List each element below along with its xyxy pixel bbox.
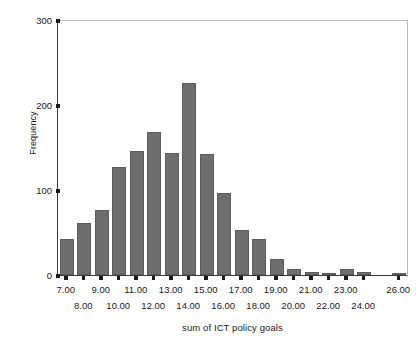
x-axis-tick-mark — [152, 276, 156, 280]
histogram-bar — [235, 230, 249, 275]
histogram-bar — [357, 272, 371, 275]
x-axis-tick-label: 22.00 — [311, 301, 345, 311]
x-axis-tick-mark — [274, 276, 278, 280]
histogram-bar — [60, 239, 74, 275]
x-axis-tick-label: 14.00 — [171, 301, 205, 311]
histogram-bar — [112, 167, 126, 275]
x-axis-tick-label: 17.00 — [224, 285, 258, 295]
x-axis-tick-mark — [327, 276, 331, 280]
histogram-bar — [200, 154, 214, 275]
x-axis-tick-label: 20.00 — [276, 301, 310, 311]
histogram-bar — [217, 193, 231, 275]
x-axis-tick-mark — [222, 276, 226, 280]
x-axis-tick-label: 13.00 — [154, 285, 188, 295]
histogram-bar — [252, 239, 266, 275]
histogram-bar — [130, 151, 144, 275]
x-axis-tick-label: 15.00 — [189, 285, 223, 295]
histogram-bar — [165, 153, 179, 275]
x-axis-tick-label: 11.00 — [119, 285, 153, 295]
x-axis-tick-mark — [344, 276, 348, 280]
histogram-chart: Frequency 0100200300 7.008.009.0010.0011… — [0, 0, 416, 351]
histogram-bar — [392, 273, 406, 275]
x-axis-tick-label: 9.00 — [84, 285, 118, 295]
x-axis-tick-label: 26.00 — [381, 285, 415, 295]
bar-series — [58, 21, 407, 275]
plot-area — [57, 21, 407, 276]
x-axis-tick-label: 8.00 — [66, 301, 100, 311]
x-axis-tick-mark — [99, 276, 103, 280]
x-axis-tick-mark — [292, 276, 296, 280]
x-axis-tick-label: 16.00 — [206, 301, 240, 311]
y-axis-tick-label: 200 — [24, 101, 52, 111]
x-axis-tick-mark — [64, 276, 68, 280]
x-axis-tick-label: 21.00 — [294, 285, 328, 295]
histogram-bar — [270, 259, 284, 275]
x-axis-tick-label: 18.00 — [241, 301, 275, 311]
x-axis-tick-label: 10.00 — [101, 301, 135, 311]
x-axis-ticks — [57, 276, 408, 282]
x-axis-tick-label: 19.00 — [259, 285, 293, 295]
histogram-bar — [340, 269, 354, 275]
x-axis-tick-mark — [169, 276, 173, 280]
x-axis-tick-mark — [134, 276, 138, 280]
histogram-bar — [305, 272, 319, 275]
x-axis-tick-mark — [397, 276, 401, 280]
x-axis-tick-label: 24.00 — [346, 301, 380, 311]
x-axis-tick-label: 12.00 — [136, 301, 170, 311]
plot-right-border — [407, 20, 408, 277]
x-axis-tick-mark — [117, 276, 121, 280]
histogram-bar — [95, 210, 109, 275]
x-axis-tick-mark — [239, 276, 243, 280]
histogram-bar — [147, 132, 161, 275]
histogram-bar — [287, 269, 301, 275]
x-axis-tick-mark — [82, 276, 86, 280]
x-axis-tick-mark — [362, 276, 366, 280]
x-axis-tick-mark — [309, 276, 313, 280]
y-axis-tick-label: 100 — [24, 186, 52, 196]
x-axis-title: sum of ICT policy goals — [57, 322, 408, 333]
y-axis-tick-label: 300 — [24, 16, 52, 26]
y-axis-tick-labels: 0100200300 — [22, 0, 52, 351]
x-axis-tick-mark — [204, 276, 208, 280]
x-axis-tick-mark — [187, 276, 191, 280]
histogram-bar — [182, 83, 196, 275]
histogram-bar — [322, 273, 336, 275]
x-axis-tick-mark — [257, 276, 261, 280]
histogram-bar — [77, 223, 91, 275]
y-axis-tick-label: 0 — [24, 271, 52, 281]
x-axis-tick-label: 23.00 — [329, 285, 363, 295]
x-axis-tick-label: 7.00 — [49, 285, 83, 295]
